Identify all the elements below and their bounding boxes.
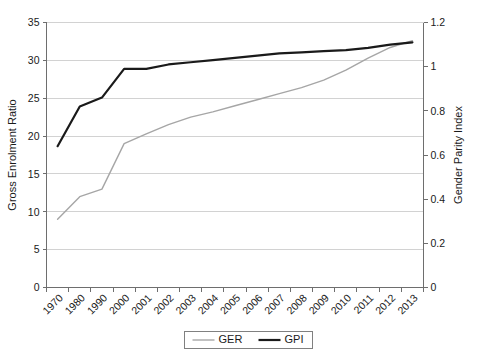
x-axis-tick-label: 2002 — [151, 291, 176, 316]
y-axis-right-tick-label: 0.8 — [431, 105, 446, 117]
y-axis-left-tick-label: 30 — [28, 54, 40, 66]
y-axis-right-tick-label: 0.4 — [431, 193, 446, 205]
y-axis-right-title: Gender Parity Index — [452, 106, 464, 204]
x-axis-tick-label: 2006 — [240, 291, 265, 316]
legend-label-gpi: GPI — [285, 333, 304, 345]
y-axis-left-tick-label: 35 — [28, 16, 40, 28]
y-axis-left-tick-label: 15 — [28, 168, 40, 180]
y-axis-right-ticks: 00.20.40.60.811.2 — [424, 16, 446, 293]
x-axis-tick-label: 1980 — [62, 291, 87, 316]
y-axis-left-tick-label: 0 — [34, 281, 40, 293]
y-axis-right-tick-label: 0 — [431, 281, 437, 293]
x-axis-tick-label: 2009 — [306, 291, 331, 316]
x-axis-tick-label: 1990 — [84, 291, 109, 316]
y-axis-left-tick-label: 20 — [28, 130, 40, 142]
series-line-gpi — [58, 42, 413, 146]
y-axis-right-tick-label: 1.2 — [431, 16, 446, 28]
y-axis-left-tick-label: 5 — [34, 243, 40, 255]
chart-container: 05101520253035 00.20.40.60.811.2 1970198… — [0, 0, 477, 354]
y-axis-left-tick-label: 10 — [28, 206, 40, 218]
x-axis-tick-label: 2003 — [173, 291, 198, 316]
legend-label-ger: GER — [219, 333, 243, 345]
x-axis-tick-label: 1970 — [40, 291, 65, 316]
chart-legend: GERGPI — [185, 332, 313, 349]
y-axis-left-ticks: 05101520253035 — [28, 16, 47, 293]
data-series — [58, 41, 413, 220]
y-axis-left-title: Gross Enrolment Ratio — [6, 99, 18, 210]
y-axis-right-tick-label: 1 — [431, 60, 437, 72]
x-axis-tick-label: 2013 — [395, 291, 420, 316]
axes — [47, 23, 424, 288]
x-axis-tick-label: 2005 — [217, 291, 242, 316]
series-line-ger — [58, 41, 413, 220]
x-axis-tick-label: 2010 — [328, 291, 353, 316]
line-chart: 05101520253035 00.20.40.60.811.2 1970198… — [0, 0, 477, 354]
x-axis-tick-label: 2012 — [373, 291, 398, 316]
y-axis-left-tick-label: 25 — [28, 92, 40, 104]
x-axis-tick-label: 2001 — [129, 291, 154, 316]
y-axis-right-tick-label: 0.6 — [431, 149, 446, 161]
x-axis-tick-label: 2008 — [284, 291, 309, 316]
x-axis-tick-label: 2007 — [262, 291, 287, 316]
x-axis-tick-label: 2004 — [195, 291, 220, 316]
x-axis-tick-label: 2000 — [107, 291, 132, 316]
x-axis-ticks: 1970198019902000200120022003200420052006… — [40, 288, 424, 317]
gridlines — [47, 23, 424, 250]
x-axis-tick-label: 2011 — [351, 291, 376, 316]
y-axis-right-tick-label: 0.2 — [431, 237, 446, 249]
